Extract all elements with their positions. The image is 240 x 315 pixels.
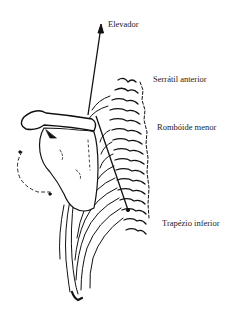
anatomical-figure bbox=[0, 0, 240, 315]
rib-tip bbox=[72, 292, 82, 300]
label-trapezio-inferior: Trapézio inferior bbox=[162, 218, 220, 228]
label-elevador: Elevador bbox=[108, 19, 139, 29]
scapula bbox=[17, 111, 98, 211]
elevador-arrowhead bbox=[98, 24, 104, 33]
scapula-body bbox=[40, 128, 99, 211]
label-romboide-menor: Rombóide menor bbox=[157, 122, 216, 132]
label-serratil-anterior: Serrátil anterior bbox=[153, 74, 207, 84]
